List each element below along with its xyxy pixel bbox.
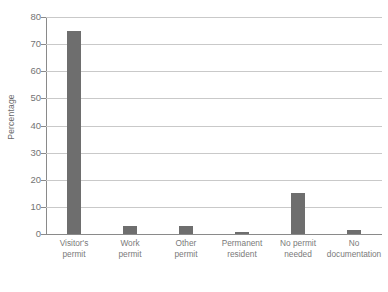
y-axis-tick-label: 60: [21, 67, 41, 77]
bar-chart: Percentage 01020304050607080 Visitor's p…: [0, 0, 388, 292]
y-axis-tick-label: 70: [21, 39, 41, 49]
bar: [291, 193, 305, 234]
y-axis-title: Percentage: [0, 0, 22, 234]
x-axis-category-label: Permanent resident: [214, 238, 270, 260]
y-axis-tick-label: 10: [21, 202, 41, 212]
x-axis-category-label: Work permit: [102, 238, 158, 260]
y-axis-tick-mark: [41, 71, 46, 72]
y-axis-tick-mark: [41, 207, 46, 208]
bar: [123, 226, 137, 234]
x-axis-category-labels: Visitor's permitWork permitOther permitP…: [46, 238, 382, 268]
y-axis-tick-mark: [41, 234, 46, 235]
y-axis-tick-mark: [41, 17, 46, 18]
bar: [67, 31, 81, 234]
y-axis-tick-label: 40: [21, 121, 41, 131]
bar: [347, 230, 361, 234]
bar: [179, 226, 193, 234]
bars-group: [46, 17, 382, 234]
y-axis-tick-label: 50: [21, 94, 41, 104]
y-axis-tick-mark: [41, 153, 46, 154]
y-axis-tick-label: 20: [21, 175, 41, 185]
y-axis-tick-mark: [41, 98, 46, 99]
bar: [235, 232, 249, 234]
y-axis-tick-mark: [41, 44, 46, 45]
x-axis-category-label: No documentation: [326, 238, 382, 260]
x-axis-baseline: [46, 234, 382, 235]
x-axis-category-label: Other permit: [158, 238, 214, 260]
y-axis-tick-mark: [41, 126, 46, 127]
x-axis-category-label: No permit needed: [270, 238, 326, 260]
y-axis-tick-label: 80: [21, 12, 41, 22]
x-axis-category-label: Visitor's permit: [46, 238, 102, 260]
y-axis-tick-label: 30: [21, 148, 41, 158]
y-axis-tick-label: 0: [21, 229, 41, 239]
plot-area: [46, 17, 382, 234]
y-axis-tick-mark: [41, 180, 46, 181]
y-axis-title-text: Percentage: [6, 94, 16, 139]
